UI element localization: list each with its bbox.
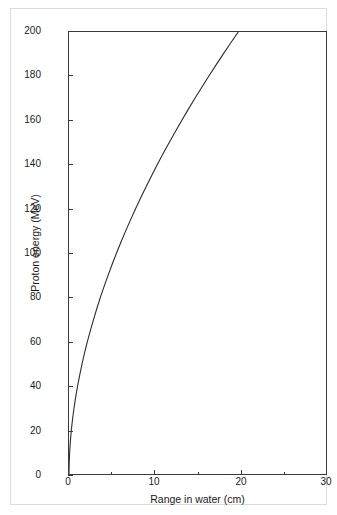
figure-outer-frame: 200 180 160 140 120 100 80 60 40 20 0 0 … [10, 8, 327, 505]
ytick-60 [68, 342, 73, 343]
xtick-minor-25 [284, 472, 285, 475]
xtick-label-30: 30 [306, 477, 337, 487]
ytick-180 [68, 75, 73, 76]
ytick-label-200: 200 [24, 26, 41, 36]
xtick-20 [241, 470, 242, 475]
xtick-label-0: 0 [48, 477, 88, 487]
ytick-label-60: 60 [30, 337, 41, 347]
ytick-200 [68, 31, 73, 32]
x-axis-title: Range in water (cm) [68, 493, 327, 505]
ytick-20 [68, 431, 73, 432]
ytick-80 [68, 297, 73, 298]
plot-area [68, 31, 327, 475]
xtick-10 [154, 470, 155, 475]
xtick-minor-5 [111, 472, 112, 475]
xtick-label-20: 20 [221, 477, 261, 487]
proton-range-energy-curve [69, 32, 238, 474]
ytick-40 [68, 386, 73, 387]
ytick-label-140: 140 [24, 159, 41, 169]
xtick-minor-15 [198, 472, 199, 475]
ytick-120 [68, 209, 73, 210]
data-curve-svg [69, 32, 326, 474]
ytick-160 [68, 120, 73, 121]
xtick-0 [68, 470, 69, 475]
ytick-label-0: 0 [35, 470, 41, 480]
ytick-label-160: 160 [24, 115, 41, 125]
ytick-100 [68, 253, 73, 254]
xtick-30 [326, 470, 327, 475]
xtick-label-10: 10 [134, 477, 174, 487]
ytick-label-40: 40 [30, 381, 41, 391]
ytick-140 [68, 164, 73, 165]
ytick-label-20: 20 [30, 426, 41, 436]
ytick-label-180: 180 [24, 70, 41, 80]
y-axis-title: Proton energy (MeV) [29, 173, 41, 313]
